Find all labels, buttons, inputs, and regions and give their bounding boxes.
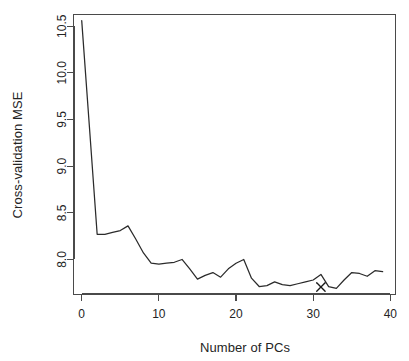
- x-tick-label: 40: [384, 307, 398, 321]
- y-tick-label: 10.0: [55, 61, 69, 85]
- plot-area: 8.08.59.09.510.010.5 010203040 Number of…: [0, 0, 409, 361]
- selected-minimum-marker: [317, 283, 325, 291]
- y-tick-label: 9.0: [55, 157, 69, 174]
- x-axis: 010203040: [78, 294, 397, 321]
- y-tick-label: 8.5: [55, 204, 69, 221]
- x-tick-label: 20: [229, 307, 243, 321]
- minimum-x-marker: [317, 283, 325, 291]
- cross-validation-mse-chart: 8.08.59.09.510.010.5 010203040 Number of…: [0, 0, 409, 361]
- x-tick-label: 30: [307, 307, 321, 321]
- y-tick-label: 8.0: [55, 251, 69, 268]
- x-tick-label: 10: [152, 307, 166, 321]
- y-axis-title: Cross-validation MSE: [10, 91, 25, 218]
- x-tick-label: 0: [78, 307, 85, 321]
- mse-series-line: [82, 21, 383, 289]
- y-axis: 8.08.59.09.510.010.5: [55, 14, 74, 268]
- y-tick-label: 9.5: [55, 111, 69, 128]
- x-axis-title: Number of PCs: [200, 340, 291, 355]
- y-tick-label: 10.5: [55, 14, 69, 38]
- plot-panel-border: [74, 15, 396, 295]
